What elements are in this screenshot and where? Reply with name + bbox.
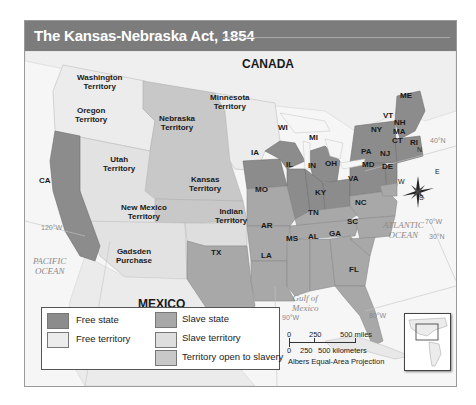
compass-n: N: [417, 146, 422, 153]
legend-label-slave-territory: Slave territory: [182, 332, 241, 343]
legend-swatch-open-to-slavery: [155, 350, 177, 366]
label-state-pa: PA: [361, 147, 372, 156]
scale-km-500: 500 kilometers: [318, 346, 367, 355]
coord-80w: 80°W: [369, 312, 386, 319]
label-state-ma: MA: [393, 127, 405, 136]
locator-globe-icon: [405, 314, 450, 370]
label-state-va: VA: [348, 174, 359, 183]
label-state-wi: WI: [278, 123, 288, 132]
label-state-md: MD: [362, 160, 374, 169]
label-state-ct: CT: [392, 136, 403, 145]
legend-swatch-free-state: [47, 313, 69, 329]
label-state-tn: TN: [308, 208, 319, 217]
label-indian-territory: IndianTerritory: [215, 207, 247, 225]
label-minnesota-territory: MinnesotaTerritory: [210, 93, 250, 111]
label-kansas-territory: KansasTerritory: [189, 175, 221, 193]
scale-km-0: 0: [287, 346, 291, 355]
compass-e: E: [435, 168, 440, 175]
label-new-mexico-territory: New MexicoTerritory: [121, 203, 167, 221]
label-state-ms: MS: [286, 234, 298, 243]
label-state-ky: KY: [315, 188, 326, 197]
label-state-ia: IA: [251, 148, 259, 157]
legend-label-free-territory: Free territory: [76, 333, 130, 344]
legend-label-slave-state: Slave state: [182, 313, 229, 324]
label-oregon-territory: OregonTerritory: [75, 106, 107, 124]
label-state-vt: VT: [383, 111, 393, 120]
label-canada: CANADA: [242, 57, 294, 71]
map-frame: The Kansas-Nebraska Act, 1854: [24, 20, 457, 387]
label-state-il: IL: [286, 160, 293, 169]
label-washington-territory: WashingtonTerritory: [77, 73, 122, 91]
label-state-ga: GA: [329, 229, 341, 238]
label-pacific-ocean: PACIFICOCEAN: [33, 256, 66, 276]
label-state-sc: SC: [347, 217, 358, 226]
coord-70w: 70°W: [425, 218, 442, 225]
legend-swatch-free-territory: [47, 332, 69, 348]
label-atlantic-ocean: ATLANTICOCEAN: [383, 220, 424, 240]
label-gulf-of-mexico: Gulf ofMexico: [292, 293, 318, 313]
label-state-ny: NY: [371, 125, 382, 134]
label-state-tx: TX: [211, 248, 221, 257]
coord-40n: 40°N: [430, 137, 446, 144]
scale-miles-250: 250: [309, 330, 322, 339]
legend-swatch-slave-state: [155, 312, 177, 328]
map-title: The Kansas-Nebraska Act, 1854: [34, 27, 254, 44]
legend-label-open-to-slavery: Territory open to slavery: [182, 351, 283, 362]
label-state-ca: CA: [39, 176, 51, 185]
scale-miles-0: 0: [287, 330, 291, 339]
title-rule: [223, 37, 450, 38]
scale-miles-500: 500 miles: [340, 330, 372, 339]
compass-s: S: [419, 194, 424, 201]
coord-90w: 90°W: [282, 314, 299, 321]
label-state-nh: NH: [394, 118, 406, 127]
label-state-la: LA: [261, 251, 272, 260]
projection-note: Albers Equal-Area Projection: [288, 357, 384, 366]
scale-km-250: 250: [300, 346, 313, 355]
compass-w: W: [398, 178, 405, 185]
label-nebraska-territory: NebraskaTerritory: [159, 114, 195, 132]
label-state-al: AL: [308, 232, 319, 241]
label-state-nc: NC: [355, 198, 367, 207]
label-state-ar: AR: [261, 221, 273, 230]
title-bar: The Kansas-Nebraska Act, 1854: [25, 21, 456, 51]
coord-120w: 120°W: [41, 224, 62, 231]
coord-30n: 30°N: [429, 233, 445, 240]
label-state-fl: FL: [349, 265, 359, 274]
label-state-in: IN: [308, 161, 316, 170]
label-state-mo: MO: [255, 185, 268, 194]
label-gadsden-purchase: GadsdenPurchase: [116, 247, 152, 265]
locator-inset-map: [404, 313, 451, 371]
label-utah-territory: UtahTerritory: [103, 155, 135, 173]
legend-swatch-slave-territory: [155, 332, 177, 348]
label-state-de: DE: [382, 162, 393, 171]
map-legend: Free state Slave state Free territory Sl…: [41, 307, 280, 370]
legend-label-free-state: Free state: [76, 314, 119, 325]
label-state-nj: NJ: [380, 149, 390, 158]
label-state-oh: OH: [325, 159, 337, 168]
label-state-me: ME: [400, 91, 412, 100]
label-state-mi: MI: [309, 133, 318, 142]
